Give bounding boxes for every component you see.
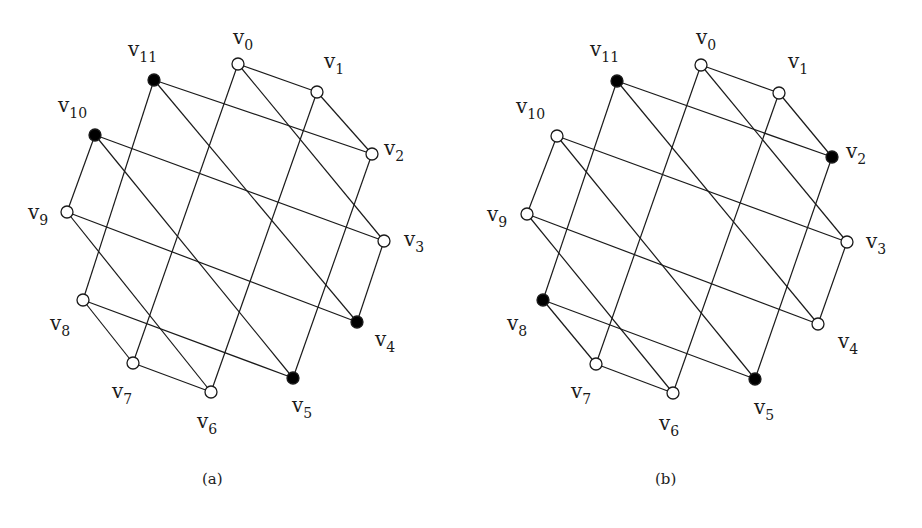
vertex-label-v1: v1 [323, 49, 344, 77]
vertex-label-v6: v6 [658, 411, 679, 439]
filled-vertex-v4 [351, 316, 363, 328]
vertex-label-v4: v4 [374, 327, 395, 355]
filled-vertex-v11 [148, 74, 160, 86]
vertex-label-v2: v2 [383, 136, 404, 164]
vertex-label-v3: v3 [403, 227, 424, 255]
edge-v3-v4 [818, 242, 847, 324]
vertex-label-v8: v8 [49, 311, 70, 339]
edge-v2-v11 [617, 81, 832, 157]
empty-vertex-v3 [378, 235, 390, 247]
graph-panel-a: v0v1v2v3v4v5v6v7v8v9v10v11 [27, 25, 424, 437]
empty-vertex-v4 [812, 318, 824, 330]
caption-a: (a) [202, 470, 223, 488]
filled-vertex-v8 [537, 294, 549, 306]
vertex-label-v3: v3 [865, 229, 886, 257]
vertex-label-v1: v1 [787, 49, 808, 77]
edge-v4-v11 [154, 80, 357, 322]
vertex-label-v2: v2 [845, 139, 866, 167]
edge-v8-v11 [83, 80, 154, 300]
edge-v4-v11 [617, 81, 818, 324]
empty-vertex-v10 [551, 130, 563, 142]
empty-vertex-v1 [773, 87, 785, 99]
edge-v9-v10 [67, 135, 95, 212]
empty-vertex-v2 [366, 148, 378, 160]
graph-canvas: v0v1v2v3v4v5v6v7v8v9v10v11v0v1v2v3v4v5v6… [0, 0, 922, 528]
empty-vertex-v9 [61, 206, 73, 218]
empty-vertex-v0 [695, 59, 707, 71]
filled-vertex-v5 [749, 373, 761, 385]
vertex-label-v9: v9 [27, 200, 48, 228]
vertex-label-v4: v4 [837, 329, 858, 357]
empty-vertex-v9 [521, 208, 533, 220]
edge-v2-v5 [293, 154, 372, 378]
empty-vertex-v1 [311, 86, 323, 98]
edge-v1-v6 [211, 92, 317, 392]
vertex-label-v5: v5 [753, 395, 774, 423]
graph-panel-b: v0v1v2v3v4v5v6v7v8v9v10v11 [486, 25, 886, 439]
vertex-label-v10: v10 [57, 93, 87, 121]
edge-v0-v7 [596, 65, 701, 364]
empty-vertex-v7 [127, 357, 139, 369]
empty-vertex-v8 [77, 294, 89, 306]
vertex-label-v11: v11 [589, 37, 619, 65]
vertex-label-v11: v11 [127, 37, 157, 65]
edge-v4-v9 [527, 214, 818, 324]
empty-vertex-v6 [205, 386, 217, 398]
filled-vertex-v5 [287, 372, 299, 384]
filled-vertex-v2 [826, 151, 838, 163]
edge-v2-v5 [755, 157, 832, 379]
caption-b: (b) [655, 470, 676, 488]
vertex-label-v5: v5 [291, 393, 312, 421]
vertex-label-v10: v10 [515, 94, 545, 122]
empty-vertex-v7 [590, 358, 602, 370]
vertex-label-v7: v7 [111, 379, 132, 407]
vertex-label-v0: v0 [695, 25, 716, 53]
empty-vertex-v0 [232, 58, 244, 70]
empty-vertex-v6 [667, 387, 679, 399]
filled-vertex-v10 [89, 129, 101, 141]
edge-v3-v4 [357, 241, 384, 322]
vertex-label-v0: v0 [232, 25, 253, 53]
edge-v8-v11 [543, 81, 617, 300]
edge-v1-v6 [673, 93, 779, 393]
empty-vertex-v3 [841, 236, 853, 248]
vertex-label-v7: v7 [570, 379, 591, 407]
edge-v9-v10 [527, 136, 557, 214]
vertex-label-v8: v8 [506, 311, 527, 339]
filled-vertex-v11 [611, 75, 623, 87]
vertex-label-v6: v6 [196, 409, 217, 437]
graph-figure: v0v1v2v3v4v5v6v7v8v9v10v11v0v1v2v3v4v5v6… [0, 0, 922, 528]
edge-v0-v7 [133, 64, 238, 363]
vertex-label-v9: v9 [486, 202, 507, 230]
